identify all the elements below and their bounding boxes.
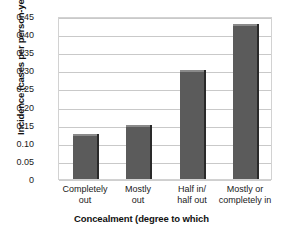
bar	[180, 70, 206, 179]
y-axis-tick-label: 0.10	[0, 139, 34, 148]
y-axis-tick-label: 0.05	[0, 157, 34, 166]
y-axis-tick-label: 0.20	[0, 103, 34, 112]
bar	[73, 134, 99, 179]
x-axis-title: Concealment (degree to which	[0, 213, 283, 224]
x-axis-tick-label-line: completely in	[212, 195, 278, 206]
plot-area	[58, 17, 272, 180]
y-axis-tick-label: 0	[0, 176, 34, 185]
x-axis-tick-labels: CompletelyoutMostlyoutHalf in/half outMo…	[58, 184, 272, 212]
y-axis-tick-label: 0.35	[0, 49, 34, 58]
y-axis-tick-label: 0.40	[0, 31, 34, 40]
y-axis-tick-label: 0.25	[0, 85, 34, 94]
y-axis-tick-label: 0.45	[0, 13, 34, 22]
x-axis-tick-label-line: Mostly or	[212, 184, 278, 195]
gridline	[59, 180, 271, 181]
bar	[126, 125, 152, 179]
bar-series	[59, 18, 271, 179]
x-axis-tick-label: Mostly orcompletely in	[212, 184, 278, 206]
bar-chart: Incidence (cases per person-year) 00.050…	[0, 0, 283, 232]
y-axis-tick-label: 0.15	[0, 121, 34, 130]
y-axis-tick-label: 0.30	[0, 67, 34, 76]
bar	[233, 24, 259, 179]
